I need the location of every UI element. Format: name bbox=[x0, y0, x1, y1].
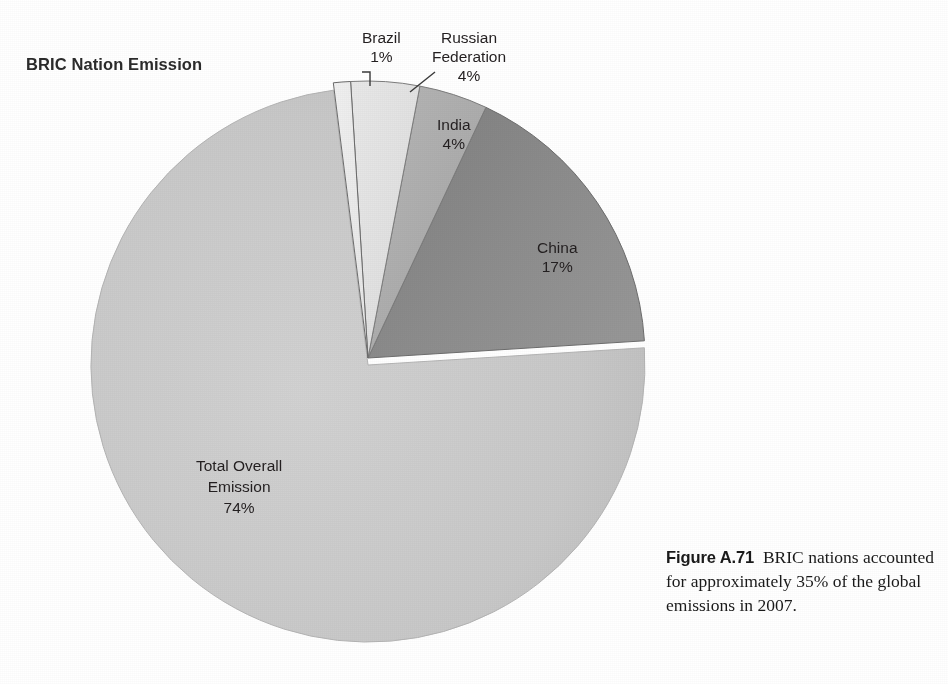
pie-label-russia-name-line2: Federation bbox=[432, 48, 506, 65]
pie-label-china-pct: 17% bbox=[537, 257, 578, 276]
pie-label-india: India 4% bbox=[437, 115, 471, 153]
pie-label-china-name: China bbox=[537, 239, 578, 256]
pie-label-india-name: India bbox=[437, 116, 471, 133]
pie-label-brazil: Brazil 1% bbox=[362, 28, 401, 66]
figure-number: Figure A.71 bbox=[666, 548, 754, 566]
pie-chart bbox=[68, 60, 668, 660]
pie-label-total-name-line2: Emission bbox=[208, 478, 271, 495]
pie-label-total-overall-emission: Total Overall Emission 74% bbox=[196, 455, 282, 518]
pie-label-india-pct: 4% bbox=[437, 134, 471, 153]
pie-label-russia-pct: 4% bbox=[432, 66, 506, 85]
figure-caption: Figure A.71 BRIC nations accounted for a… bbox=[666, 545, 938, 617]
pie-label-russia-name-line1: Russian bbox=[441, 29, 497, 46]
pie-label-china: China 17% bbox=[537, 238, 578, 276]
pie-chart-svg bbox=[68, 60, 668, 660]
pie-label-total-name-line1: Total Overall bbox=[196, 457, 282, 474]
pie-label-total-pct: 74% bbox=[196, 497, 282, 518]
pie-label-russia: Russian Federation 4% bbox=[432, 28, 506, 85]
pie-label-brazil-pct: 1% bbox=[362, 47, 401, 66]
pie-label-brazil-name: Brazil bbox=[362, 29, 401, 46]
